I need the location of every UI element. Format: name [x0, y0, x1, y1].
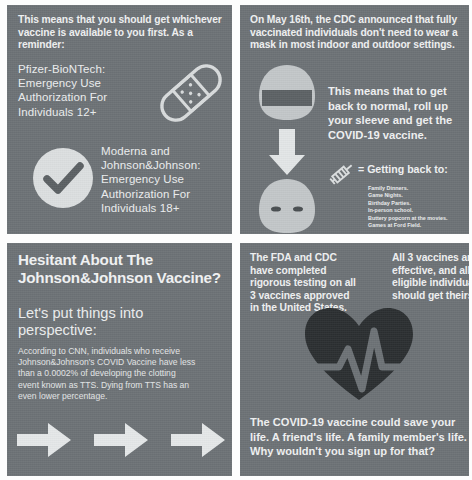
panel-cdc-mask-announcement: On May 16th, the CDC announced that full…	[240, 5, 469, 234]
list-item: Birthday Parties.	[368, 200, 469, 207]
unmasked-face-icon	[259, 179, 315, 233]
save-your-life-text: The COVID-19 vaccine could save your lif…	[250, 415, 469, 459]
syringe-icon	[326, 160, 358, 188]
hesitancy-title: Hesitant About The Johnson&Johnson Vacci…	[18, 251, 223, 286]
heart-ekg-icon	[302, 305, 416, 403]
moderna-jj-authorization-text: Moderna and Johnson&Johnson: Emergency U…	[101, 144, 229, 215]
mask-to-nomask-illustration	[251, 63, 323, 233]
cnn-statistics-text: According to CNN, individuals who receiv…	[18, 346, 196, 402]
getting-back-to-label: = Getting back to:	[358, 163, 448, 176]
eligibility-intro-text: This means that you should get whichever…	[18, 14, 223, 52]
list-item: In-person school.	[368, 207, 469, 214]
right-arrow-icon	[169, 419, 227, 461]
pfizer-authorization-text: Pfizer-BioNTech: Emergency Use Authoriza…	[18, 62, 148, 119]
right-arrow-icon	[15, 419, 73, 461]
down-arrow-icon	[269, 129, 305, 175]
panel-jj-hesitancy: Hesitant About The Johnson&Johnson Vacci…	[7, 243, 232, 476]
check-circle-icon	[31, 146, 95, 210]
list-item: Family Dinners.	[368, 185, 469, 192]
list-item: Game Nights.	[368, 192, 469, 199]
back-to-normal-text: This means that to get back to normal, r…	[328, 84, 462, 142]
panel-vaccine-eligibility: This means that you should get whichever…	[7, 5, 232, 234]
activities-list: Family Dinners. Game Nights. Birthday Pa…	[368, 185, 469, 229]
list-item: Games at Ford Field.	[368, 222, 469, 229]
arrow-row	[15, 415, 227, 465]
right-arrow-icon	[92, 419, 150, 461]
vaccines-safe-text: All 3 vaccines are safe, effective, and …	[392, 252, 469, 302]
masked-face-icon	[259, 65, 315, 120]
panel-vaccine-safety: The FDA and CDC have completed rigorous …	[240, 243, 469, 476]
bandage-icon	[149, 57, 232, 129]
infographic-sheet: This means that you should get whichever…	[0, 0, 472, 480]
perspective-subtitle: Let's put things into perspective:	[18, 305, 218, 340]
cdc-announcement-text: On May 16th, the CDC announced that full…	[250, 14, 463, 52]
list-item: Buttery popcorn at the movies.	[368, 215, 469, 222]
